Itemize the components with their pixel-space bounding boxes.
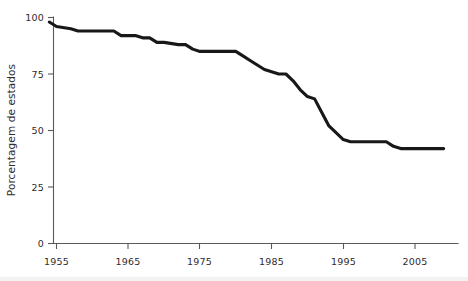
- y-tick-label-75: 75: [32, 69, 45, 80]
- x-tick-label-2005: 2005: [403, 256, 428, 267]
- x-tick-label-1955: 1955: [44, 256, 69, 267]
- y-tick-label-25: 25: [32, 182, 45, 193]
- chart-figure: 100 75 50 25 0 1955 1965 1975 1985 1995 …: [0, 0, 468, 281]
- x-tick-label-1975: 1975: [187, 256, 212, 267]
- line-chart: 100 75 50 25 0 1955 1965 1975 1985 1995 …: [0, 0, 468, 281]
- x-tick-label-1965: 1965: [116, 256, 141, 267]
- x-tick-label-1985: 1985: [259, 256, 284, 267]
- x-tick-label-1995: 1995: [331, 256, 356, 267]
- chart-background: [0, 0, 468, 281]
- y-tick-label-100: 100: [25, 12, 44, 23]
- y-tick-label-0: 0: [38, 238, 44, 249]
- y-tick-label-50: 50: [32, 125, 45, 136]
- y-axis-title: Porcentagem de estados: [5, 64, 17, 196]
- scan-edge-artifact: [0, 277, 468, 281]
